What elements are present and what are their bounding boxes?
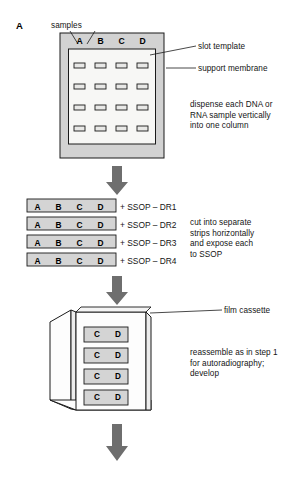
strip-3-probe-label: + SSOP – DR3 [120, 238, 176, 248]
arrow-down-2 [106, 276, 128, 305]
membrane-column-header-d: D [137, 36, 149, 46]
strip-1-probe-label: + SSOP – DR1 [120, 202, 176, 212]
slot-a2 [74, 84, 85, 89]
membrane-column-header-c: C [116, 36, 128, 46]
cassette-strip-2-letter-d: D [113, 351, 123, 360]
cassette-lid-edge [71, 310, 76, 410]
callout-samples: samples [51, 21, 82, 32]
strip-4-letter-d: D [95, 256, 106, 266]
membrane-column-header-a: A [74, 36, 86, 46]
slot-b2 [95, 84, 106, 89]
strip-2-letter-c: C [74, 220, 85, 230]
slot-b3 [95, 105, 106, 110]
strip-3-letter-d: D [95, 238, 106, 248]
slot-d1 [137, 63, 148, 68]
strip-3-letter-a: A [32, 238, 43, 248]
slot-a4 [74, 126, 85, 131]
strip-4-probe-label: + SSOP – DR4 [120, 256, 176, 266]
strip-2-probe-label: + SSOP – DR2 [120, 220, 176, 230]
slot-d3 [137, 105, 148, 110]
callout-slot-template: slot template [198, 42, 245, 53]
cassette-strip-3-letter-d: D [113, 372, 123, 381]
cassette-strip-4-letter-d: D [113, 393, 123, 402]
figure-canvas: A [0, 0, 294, 480]
arrow-down-3 [106, 424, 128, 461]
strip-1-letter-c: C [74, 202, 85, 212]
strip-4-letter-b: B [53, 256, 64, 266]
slot-b4 [95, 126, 106, 131]
strip-4-letter-a: A [32, 256, 43, 266]
slot-d4 [137, 126, 148, 131]
slot-c4 [116, 126, 127, 131]
cassette-strip-1-letter-d: D [113, 330, 123, 339]
slot-c1 [116, 63, 127, 68]
callout-support-membrane: support membrane [198, 64, 268, 75]
callout-film-cassette: film cassette [224, 306, 270, 317]
cassette-strip-4-letter-c: C [92, 393, 102, 402]
strip-1-letter-b: B [53, 202, 64, 212]
slot-b1 [95, 63, 106, 68]
cassette-strip-3-letter-c: C [92, 372, 102, 381]
strip-2-letter-b: B [53, 220, 64, 230]
slot-a1 [74, 63, 85, 68]
membrane-column-header-b: B [95, 36, 107, 46]
strip-4-letter-c: C [74, 256, 85, 266]
strip-2-letter-d: D [95, 220, 106, 230]
strip-1-letter-d: D [95, 202, 106, 212]
slot-c3 [116, 105, 127, 110]
strip-2-letter-a: A [32, 220, 43, 230]
arrow-down-1 [106, 166, 128, 195]
slot-d2 [137, 84, 148, 89]
cassette-top-bevel [76, 307, 151, 312]
step1-membrane-group [60, 31, 196, 158]
strip-3-letter-b: B [53, 238, 64, 248]
leader-film-cassette [150, 310, 222, 313]
cassette-strip-2-letter-c: C [92, 351, 102, 360]
strip-3-letter-c: C [74, 238, 85, 248]
cassette-strip-1-letter-c: C [92, 330, 102, 339]
slot-c2 [116, 84, 127, 89]
strip-1-letter-a: A [32, 202, 43, 212]
cassette-lid-face [50, 310, 71, 409]
instruction-reassemble: reassemble as in step 1 for autoradiogra… [190, 348, 278, 380]
slot-a3 [74, 105, 85, 110]
instruction-dispense: dispense each DNA or RNA sample vertical… [190, 100, 272, 132]
cassette-right-wall [146, 312, 151, 410]
instruction-cut-strips: cut into separate strips horizontally an… [190, 218, 254, 260]
